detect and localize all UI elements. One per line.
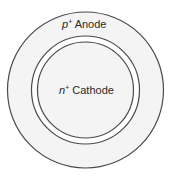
anode-label-prefix: p bbox=[61, 18, 68, 30]
anode-label: p+ Anode bbox=[61, 18, 106, 30]
anode-label-text: Anode bbox=[72, 18, 106, 30]
anode-cathode-diagram: p+ Anode n+ Cathode bbox=[0, 0, 172, 178]
cathode-label-text: Cathode bbox=[69, 84, 114, 96]
